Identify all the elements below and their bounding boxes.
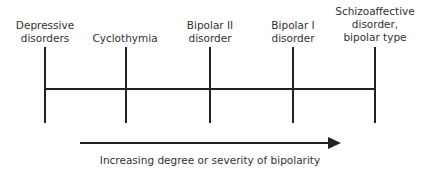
arrow-caption: Increasing degree or severity of bipolar… — [100, 154, 320, 166]
arrow-right-icon — [0, 0, 433, 169]
